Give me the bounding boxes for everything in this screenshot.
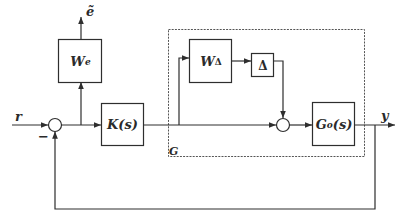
uncertainty-label: Δ [252,54,274,77]
plant-group-label: G [169,146,178,157]
controller-label: K(s) [101,103,144,146]
weighted-error-label: ẽ [86,5,94,18]
output-label: y [381,109,389,122]
summing-junction-1 [49,119,62,132]
uncertainty-output-line [274,61,284,118]
error-weight-label: We [59,40,102,83]
nominal-plant-label: Go(s) [313,103,355,146]
reference-label: r [15,110,22,123]
uncertainty-weight-label: WΔ [190,40,232,83]
uncertainty-tap-line [179,58,189,125]
feedback-sign-label: − [38,130,49,143]
summing-junction-2 [277,119,290,132]
